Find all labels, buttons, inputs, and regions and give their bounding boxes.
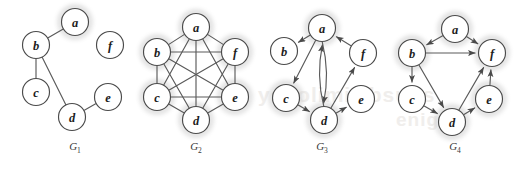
graph-caption-g3: G3: [316, 140, 328, 155]
node-g4-e[interactable]: e: [476, 86, 503, 113]
caption-subscript: 3: [324, 146, 328, 155]
node-g2-f[interactable]: f: [222, 39, 249, 66]
node-g1-d[interactable]: d: [59, 104, 86, 131]
caption-subscript: 4: [457, 146, 461, 155]
node-g1-c[interactable]: c: [23, 79, 50, 106]
node-label-b: b: [409, 47, 415, 61]
graph-caption-g1: G1: [69, 140, 81, 155]
node-g1-f[interactable]: f: [97, 32, 124, 59]
node-label-e: e: [105, 91, 111, 105]
caption-letter: G: [69, 140, 77, 152]
node-g2-d[interactable]: d: [183, 107, 210, 134]
edge-g3-a-b: [298, 35, 309, 42]
node-g4-c[interactable]: c: [399, 86, 426, 113]
edge-g3-d-e: [336, 107, 346, 113]
edge-g4-a-f: [467, 37, 478, 44]
node-label-d: d: [449, 116, 456, 130]
node-g4-b[interactable]: b: [399, 40, 426, 67]
node-g2-a[interactable]: a: [183, 14, 210, 41]
node-g3-d[interactable]: d: [311, 107, 338, 134]
edge-g2-c-d: [169, 104, 184, 113]
caption-subscript: 1: [77, 146, 81, 155]
node-label-c: c: [409, 93, 415, 107]
node-label-c: c: [33, 86, 39, 100]
node-label-d: d: [69, 111, 76, 125]
node-g3-b[interactable]: b: [271, 38, 298, 65]
node-label-b: b: [154, 46, 160, 60]
caption-letter: G: [316, 140, 324, 152]
graph-caption-g2: G2: [190, 140, 202, 155]
node-label-d: d: [321, 114, 328, 128]
node-g3-a[interactable]: a: [309, 15, 336, 42]
node-label-a: a: [72, 16, 78, 30]
edge-g3-a-d: [322, 42, 326, 103]
node-g2-c[interactable]: c: [144, 84, 171, 111]
node-label-a: a: [319, 22, 325, 36]
node-g2-b[interactable]: b: [144, 39, 171, 66]
node-label-a: a: [193, 21, 199, 35]
node-g3-c[interactable]: c: [273, 85, 300, 112]
node-g4-a[interactable]: a: [442, 16, 469, 43]
node-label-c: c: [283, 92, 289, 106]
edge-g2-a-b: [169, 35, 184, 45]
node-g1-a[interactable]: a: [62, 9, 89, 36]
edge-g4-a-b: [427, 36, 443, 45]
edge-g4-d-e: [464, 108, 475, 115]
edge-g2-d-e: [208, 104, 223, 113]
edge-g3-f-a: [336, 37, 351, 46]
caption-subscript: 2: [198, 146, 202, 155]
node-label-e: e: [232, 91, 238, 105]
caption-letter: G: [190, 140, 198, 152]
node-layer: abcdefabcdefabcdefabcdef: [23, 9, 506, 136]
caption-letter: G: [449, 140, 457, 152]
node-g1-e[interactable]: e: [95, 84, 122, 111]
edge-g3-d-a: [319, 45, 323, 106]
edge-g4-c-d: [424, 106, 437, 114]
edge-g1-d-e: [84, 104, 95, 110]
node-label-e: e: [358, 93, 364, 107]
graph-caption-g4: G4: [449, 140, 461, 155]
node-label-e: e: [486, 93, 492, 107]
node-g2-e[interactable]: e: [222, 84, 249, 111]
edge-g3-c-d: [298, 105, 309, 111]
node-g3-f[interactable]: f: [350, 40, 377, 67]
node-g4-f[interactable]: f: [479, 40, 506, 67]
node-g3-e[interactable]: e: [348, 86, 375, 113]
node-label-c: c: [154, 91, 160, 105]
node-g1-b[interactable]: b: [23, 32, 50, 59]
node-label-b: b: [33, 39, 39, 53]
node-label-b: b: [281, 45, 287, 59]
node-g4-d[interactable]: d: [439, 109, 466, 136]
node-label-d: d: [193, 114, 200, 128]
node-label-a: a: [452, 23, 458, 37]
edge-g2-a-f: [208, 35, 223, 45]
edge-g1-a-b: [48, 29, 63, 38]
